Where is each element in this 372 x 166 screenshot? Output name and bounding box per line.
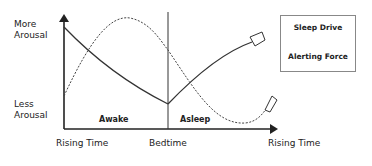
legend: Sleep Drive Alerting Force bbox=[280, 15, 356, 72]
legend-alerting-force: Alerting Force bbox=[281, 52, 355, 61]
region-asleep-label: Asleep bbox=[180, 114, 210, 125]
sleep-drive-line-rise bbox=[168, 42, 252, 104]
x-tick-bedtime: Bedtime bbox=[149, 138, 187, 149]
y-label-top: MoreArousal bbox=[14, 19, 48, 41]
y-axis-arrow-icon bbox=[59, 14, 69, 22]
x-axis-arrow-icon bbox=[270, 124, 278, 134]
sleep-drive-line bbox=[64, 27, 168, 104]
legend-sleep-drive: Sleep Drive bbox=[281, 23, 355, 32]
x-tick-rising-time-2: Rising Time bbox=[268, 138, 320, 149]
sleep-drive-arrow-icon bbox=[250, 32, 265, 46]
region-awake-label: Awake bbox=[99, 114, 129, 125]
alerting-force-arrow-icon bbox=[265, 96, 277, 112]
alerting-force-line bbox=[64, 18, 268, 123]
x-tick-rising-time-1: Rising Time bbox=[56, 138, 108, 149]
y-label-bottom: LessArousal bbox=[14, 99, 48, 121]
